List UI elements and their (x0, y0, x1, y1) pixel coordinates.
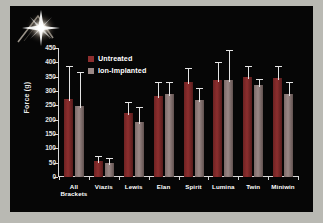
bar[interactable] (224, 80, 233, 177)
presentation-slide: Force (g) 050100150200250300350400450 Al… (10, 6, 313, 212)
y-tick-label: 350 (10, 74, 56, 81)
x-tick (89, 176, 90, 180)
chart-legend: Untreated Ion-Implanted (88, 54, 146, 78)
x-tick (149, 176, 150, 180)
y-tick-label: 400 (10, 59, 56, 66)
bar[interactable] (75, 106, 84, 177)
x-axis-label: Miniwin (262, 183, 304, 190)
error-bar (139, 107, 140, 124)
y-tick-label: 300 (10, 88, 56, 95)
y-tick-label: 150 (10, 131, 56, 138)
legend-swatch-ion-implanted (88, 68, 94, 74)
y-tick-label: 250 (10, 102, 56, 109)
legend-label-untreated: Untreated (98, 54, 132, 63)
y-tick-label: 200 (10, 117, 56, 124)
error-bar (259, 79, 260, 88)
error-bar-cap (185, 68, 192, 69)
error-bar-cap (125, 102, 132, 103)
bar-group (62, 48, 88, 177)
x-tick (59, 176, 60, 180)
bar-chart: Force (g) 050100150200250300350400450 Al… (10, 6, 313, 212)
error-bar (188, 68, 189, 84)
error-bar (109, 158, 110, 166)
error-bar (69, 66, 70, 101)
legend-swatch-untreated (88, 56, 94, 62)
bar[interactable] (124, 113, 133, 177)
x-tick (119, 176, 120, 180)
bar[interactable] (195, 100, 204, 177)
slide-frame: Force (g) 050100150200250300350400450 Al… (0, 0, 323, 223)
x-tick (238, 176, 239, 180)
error-bar-cap (106, 158, 113, 159)
x-tick (298, 176, 299, 180)
error-bar-cap (286, 82, 293, 83)
bar[interactable] (105, 163, 114, 177)
x-tick (179, 176, 180, 180)
error-bar-cap (245, 66, 252, 67)
error-bar-cap (226, 50, 233, 51)
bar-group (182, 48, 208, 177)
bar[interactable] (184, 82, 193, 177)
bar[interactable] (165, 94, 174, 177)
bar[interactable] (94, 161, 103, 177)
error-bar (128, 102, 129, 115)
legend-item-untreated: Untreated (88, 54, 146, 63)
error-bar-cap (215, 62, 222, 63)
bar[interactable] (213, 80, 222, 177)
bar[interactable] (254, 85, 263, 177)
error-bar-cap (95, 156, 102, 157)
bar[interactable] (135, 122, 144, 177)
error-bar (218, 62, 219, 82)
error-bar (158, 82, 159, 98)
y-tick-label: 0 (10, 174, 56, 181)
error-bar (248, 66, 249, 79)
bar[interactable] (284, 94, 293, 177)
error-bar-cap (196, 88, 203, 89)
x-tick (268, 176, 269, 180)
bar[interactable] (154, 96, 163, 177)
error-bar (169, 82, 170, 96)
error-bar-cap (256, 79, 263, 80)
error-bar (199, 88, 200, 102)
error-bar-cap (155, 82, 162, 83)
error-bar-cap (77, 72, 84, 73)
y-tick-label: 50 (10, 160, 56, 167)
legend-label-ion-implanted: Ion-Implanted (98, 66, 146, 75)
bar-group (152, 48, 178, 177)
error-bar (289, 82, 290, 96)
bar-group (211, 48, 237, 177)
legend-item-ion-implanted: Ion-Implanted (88, 66, 146, 75)
x-tick (208, 176, 209, 180)
error-bar-cap (166, 82, 173, 83)
bar[interactable] (243, 77, 252, 177)
bar[interactable] (64, 99, 73, 177)
y-tick-label: 450 (10, 45, 56, 52)
bar-group (271, 48, 297, 177)
error-bar (229, 50, 230, 82)
error-bar-cap (66, 66, 73, 67)
error-bar-cap (275, 66, 282, 67)
y-tick-label: 100 (10, 145, 56, 152)
error-bar (278, 66, 279, 79)
bar[interactable] (273, 78, 282, 177)
error-bar-cap (136, 107, 143, 108)
error-bar (80, 72, 81, 108)
error-bar (98, 156, 99, 164)
bar-group (241, 48, 267, 177)
